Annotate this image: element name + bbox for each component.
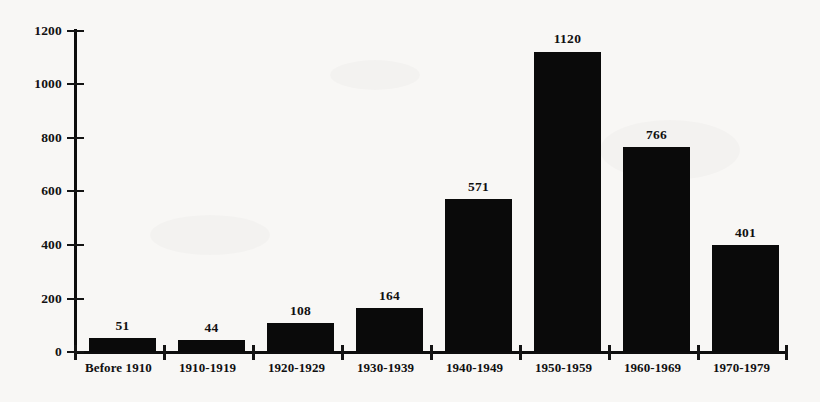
x-axis-category-label: 1920-1929 <box>252 360 341 376</box>
bar-1970-1979[interactable] <box>712 245 779 352</box>
bar-1920-1929[interactable] <box>267 323 334 352</box>
y-axis-tick-label: 0 <box>16 344 62 360</box>
scan-artifact <box>330 60 420 90</box>
x-axis-tick <box>608 345 611 360</box>
bar-value-label: 766 <box>623 127 690 143</box>
y-axis-tick-label: 800 <box>16 130 62 146</box>
y-axis-tick-label: 600 <box>16 183 62 199</box>
x-axis-category-label: Before 1910 <box>74 360 163 376</box>
x-axis-tick <box>785 345 788 360</box>
bar-value-label: 164 <box>356 288 423 304</box>
x-axis-tick <box>74 345 77 360</box>
bar-value-label: 571 <box>445 179 512 195</box>
x-axis-category-label: 1930-1939 <box>341 360 430 376</box>
y-axis-tick-label: 1200 <box>16 23 62 39</box>
x-axis-tick <box>163 345 166 360</box>
bar-1930-1939[interactable] <box>356 308 423 352</box>
bar-1940-1949[interactable] <box>445 199 512 352</box>
y-axis-tick <box>67 298 84 300</box>
x-axis-tick <box>697 345 700 360</box>
bar-value-label: 44 <box>178 320 245 336</box>
x-axis-tick <box>341 345 344 360</box>
bar-value-label: 51 <box>89 318 156 334</box>
y-axis-tick-label: 1000 <box>16 76 62 92</box>
x-axis-category-label: 1960-1969 <box>608 360 697 376</box>
bar-chart-figure: 1200 1000 800 600 400 200 0 51 Before 19… <box>0 0 820 402</box>
bar-value-label: 1120 <box>534 31 601 47</box>
x-axis-tick <box>519 345 522 360</box>
x-axis-category-label: 1940-1949 <box>430 360 519 376</box>
bar-1910-1919[interactable] <box>178 340 245 352</box>
y-axis-tick <box>67 190 84 192</box>
y-axis-tick <box>67 83 84 85</box>
scan-artifact <box>150 215 270 255</box>
x-axis-category-label: 1970-1979 <box>697 360 786 376</box>
y-axis-tick <box>67 30 84 32</box>
x-axis-category-label: 1950-1959 <box>519 360 608 376</box>
bar-1960-1969[interactable] <box>623 147 690 352</box>
bar-1950-1959[interactable] <box>534 52 601 352</box>
bar-value-label: 401 <box>712 225 779 241</box>
x-axis-tick <box>252 345 255 360</box>
bar-value-label: 108 <box>267 303 334 319</box>
y-axis-tick-label: 400 <box>16 237 62 253</box>
y-axis-tick <box>67 137 84 139</box>
x-axis-tick <box>430 345 433 360</box>
bar-before-1910[interactable] <box>89 338 156 352</box>
y-axis-tick-label: 200 <box>16 291 62 307</box>
x-axis-category-label: 1910-1919 <box>163 360 252 376</box>
y-axis-tick <box>67 244 84 246</box>
